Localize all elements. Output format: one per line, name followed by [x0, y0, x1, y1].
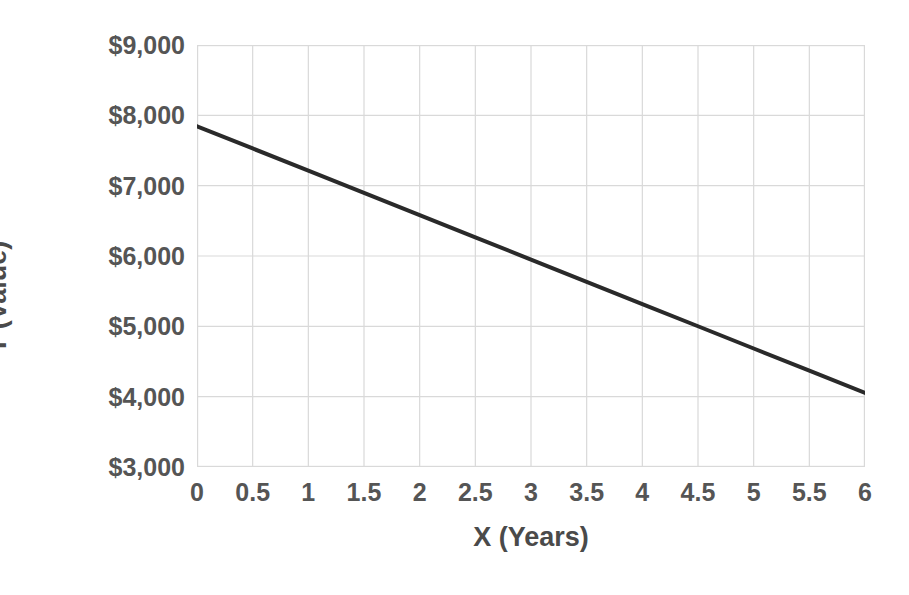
x-axis-tick-label: 1.5 — [347, 478, 382, 507]
x-axis-tick-label: 6 — [858, 478, 872, 507]
y-axis-tick-label: $7,000 — [60, 171, 185, 200]
x-axis-tick-label: 5 — [747, 478, 761, 507]
plot-svg — [197, 45, 865, 467]
x-axis-tick-label: 2.5 — [458, 478, 493, 507]
x-axis-tick-label: 5.5 — [792, 478, 827, 507]
x-axis-tick-label: 3 — [524, 478, 538, 507]
chart-container: Y (Value) $3,000$4,000$5,000$6,000$7,000… — [0, 0, 909, 595]
y-axis-title-label: Y (Value) — [0, 241, 13, 355]
y-axis-tick-label: $3,000 — [60, 453, 185, 482]
x-axis-tick-label: 2 — [413, 478, 427, 507]
y-axis-title: Y (Value) — [0, 0, 62, 595]
plot-area — [197, 45, 865, 467]
x-axis-tick-label: 0.5 — [235, 478, 270, 507]
y-axis-tick-label: $9,000 — [60, 31, 185, 60]
y-axis-tick-labels: $3,000$4,000$5,000$6,000$7,000$8,000$9,0… — [60, 45, 185, 467]
x-axis-tick-label: 4 — [635, 478, 649, 507]
x-axis-title-label: X (Years) — [473, 522, 589, 552]
y-axis-tick-label: $5,000 — [60, 312, 185, 341]
y-axis-tick-label: $6,000 — [60, 242, 185, 271]
x-axis-tick-label: 1 — [301, 478, 315, 507]
x-axis-title: X (Years) — [197, 522, 865, 553]
x-axis-tick-labels: 00.511.522.533.544.555.56 — [197, 478, 865, 514]
y-axis-tick-label: $4,000 — [60, 382, 185, 411]
y-axis-tick-label: $8,000 — [60, 101, 185, 130]
x-axis-tick-label: 0 — [190, 478, 204, 507]
x-axis-tick-label: 4.5 — [681, 478, 716, 507]
x-axis-tick-label: 3.5 — [569, 478, 604, 507]
